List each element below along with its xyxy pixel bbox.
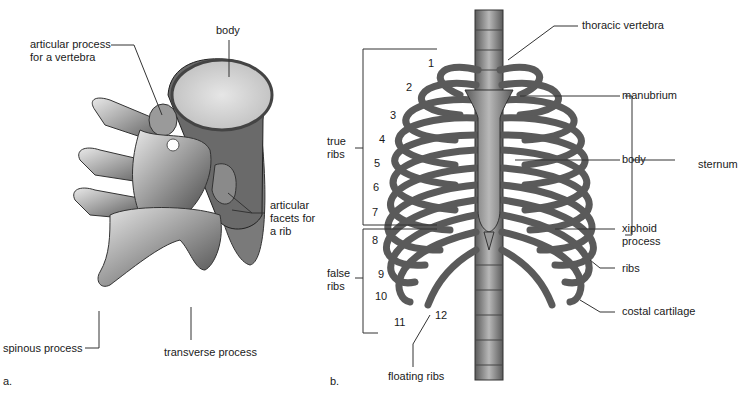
anatomy-illustration <box>0 0 755 398</box>
label-true-ribs: true ribs <box>327 135 346 161</box>
label-costal-cartilage: costal cartilage <box>622 305 695 318</box>
rib-number-8: 8 <box>372 234 378 246</box>
rib-number-3: 3 <box>390 109 396 121</box>
label-articular-process: articular process for a vertebra <box>30 38 111 64</box>
label-sternum-body: body <box>622 153 646 166</box>
rib-number-5: 5 <box>374 157 380 169</box>
rib-number-12: 12 <box>435 309 447 321</box>
rib-number-10: 10 <box>375 290 387 302</box>
panel-b-letter: b. <box>330 375 339 388</box>
rib-number-6: 6 <box>373 181 379 193</box>
label-articular-facets: articular facets for a rib <box>270 199 315 238</box>
rib-number-1: 1 <box>428 57 434 69</box>
rib-number-9: 9 <box>378 268 384 280</box>
label-xiphoid-process: xiphoid process <box>622 222 661 248</box>
label-floating-ribs: floating ribs <box>388 370 444 383</box>
label-vertebra-body: body <box>216 24 240 37</box>
label-thoracic-vertebra: thoracic vertebra <box>582 19 664 32</box>
label-false-ribs: false ribs <box>327 267 350 293</box>
rib-number-11: 11 <box>394 316 405 328</box>
rib-number-2: 2 <box>406 81 412 93</box>
label-transverse-process: transverse process <box>164 346 257 359</box>
label-manubrium: manubrium <box>622 89 677 102</box>
panel-a-letter: a. <box>3 375 12 388</box>
rib-number-7: 7 <box>372 206 378 218</box>
label-sternum: sternum <box>698 158 738 171</box>
vertebra-illustration <box>74 59 272 287</box>
label-spinous-process: spinous process <box>3 342 83 355</box>
label-ribs: ribs <box>622 262 640 275</box>
rib-number-4: 4 <box>379 133 385 145</box>
ribcage-illustration <box>386 10 593 380</box>
